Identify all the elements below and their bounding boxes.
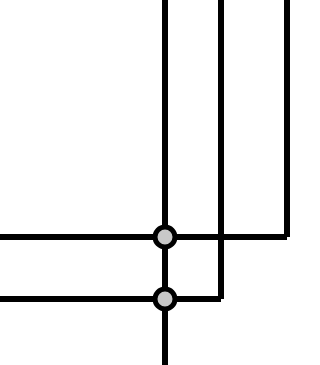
junction-node-lower[interactable] (155, 289, 175, 309)
diagram-canvas (0, 0, 320, 365)
schematic-diagram (0, 0, 320, 365)
junction-node-upper[interactable] (155, 227, 175, 247)
